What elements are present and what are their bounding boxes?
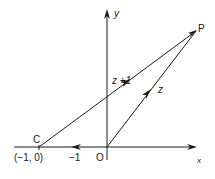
x-axis-label: x <box>196 156 202 165</box>
point-c-label: C <box>33 134 40 145</box>
diagram-svg: y P z +1 z C (−1, 0) −1 O x <box>0 0 215 179</box>
vector-z-line <box>107 31 196 147</box>
vector-z-label: z <box>157 84 163 95</box>
argand-diagram: y P z +1 z C (−1, 0) −1 O x <box>0 0 215 179</box>
minus-one-label: −1 <box>69 152 81 163</box>
vector-z-plus-1-line <box>39 31 196 147</box>
origin-label: O <box>96 152 104 163</box>
vector-z-plus-1-label: z +1 <box>111 75 131 86</box>
y-axis-label: y <box>113 8 120 19</box>
point-c-coords-label: (−1, 0) <box>14 152 43 163</box>
vector-z-arrow-icon <box>142 89 151 99</box>
point-p-label: P <box>198 23 205 34</box>
